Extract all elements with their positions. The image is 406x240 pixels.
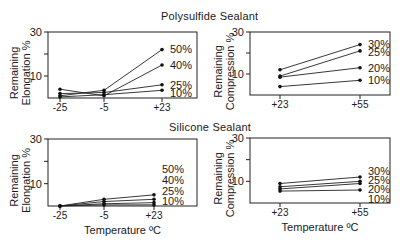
x-axis-label: Temperature ºC	[84, 224, 161, 236]
data-point	[58, 92, 62, 96]
y-axis-label: Elongation %	[20, 148, 32, 213]
data-point	[160, 63, 164, 67]
data-point	[152, 193, 156, 197]
data-point	[358, 79, 362, 83]
data-point	[152, 203, 156, 207]
data-point	[278, 189, 282, 193]
x-tick-label: -25	[53, 210, 68, 221]
series-label: 20%	[368, 62, 390, 74]
data-point	[58, 204, 62, 208]
series-label: 40%	[170, 59, 192, 71]
data-point	[160, 83, 164, 87]
data-point	[160, 48, 164, 52]
series-label: 25%	[368, 46, 390, 58]
y-axis-label: Remaining	[8, 47, 20, 100]
chart-panel-1: 1030RemainingCompression %+23+5530%25%20…	[212, 26, 390, 110]
data-point	[278, 75, 282, 79]
series-line	[280, 190, 360, 191]
x-tick-label: +55	[352, 99, 369, 110]
chart-panel-3: 1030RemainingCompression %+23+5530%25%20…	[212, 132, 390, 233]
y-axis-label: Remaining	[8, 154, 20, 207]
y-axis-label: Remaining	[212, 45, 224, 98]
series-label: 50%	[170, 43, 192, 55]
data-point	[358, 49, 362, 53]
y-axis-label: Compression %	[224, 32, 236, 110]
x-tick-label: -25	[53, 102, 68, 113]
x-tick-label: +23	[146, 210, 163, 221]
x-axis-label: Temperature ºC	[282, 221, 359, 233]
y-tick-label: 30	[30, 133, 42, 145]
x-tick-label: +55	[352, 207, 369, 218]
x-tick-label: -5	[100, 210, 109, 221]
y-axis-label: Elongation %	[20, 40, 32, 105]
data-point	[58, 95, 62, 99]
x-tick-label: +23	[272, 207, 289, 218]
data-point	[102, 93, 106, 97]
data-point	[278, 85, 282, 89]
series-label: 10%	[170, 87, 192, 99]
data-point	[358, 43, 362, 47]
series-label: 10%	[162, 195, 184, 207]
data-point	[278, 68, 282, 72]
series-label: 10%	[368, 193, 390, 205]
y-axis-label: Remaining	[212, 152, 224, 205]
chart-canvas: 1030RemainingElongation %-25-5+2350%40%2…	[0, 0, 406, 240]
series-label: 10%	[368, 74, 390, 86]
data-point	[102, 203, 106, 207]
x-tick-label: +23	[154, 102, 171, 113]
series-line	[280, 80, 360, 86]
data-point	[358, 182, 362, 186]
x-tick-label: -5	[100, 102, 109, 113]
y-axis-label: Compression %	[224, 139, 236, 217]
data-point	[58, 87, 62, 91]
data-point	[358, 175, 362, 179]
chart-panel-0: 1030RemainingElongation %-25-5+2350%40%2…	[8, 26, 197, 113]
series-line	[280, 45, 360, 70]
data-point	[160, 89, 164, 93]
x-tick-label: +23	[272, 99, 289, 110]
data-point	[358, 66, 362, 70]
y-tick-label: 30	[30, 26, 42, 38]
data-point	[152, 198, 156, 202]
chart-panel-2: 1030RemainingElongation %-25-5+2350%40%2…	[8, 133, 197, 236]
data-point	[358, 188, 362, 192]
data-point	[278, 182, 282, 186]
